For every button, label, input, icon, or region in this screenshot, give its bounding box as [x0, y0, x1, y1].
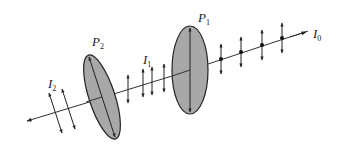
incident-light-markers — [219, 23, 284, 74]
beam-line — [27, 31, 308, 121]
label-i1: I1 — [142, 52, 151, 69]
label-i0: I0 — [312, 26, 321, 43]
label-i2: I2 — [47, 76, 56, 93]
label-p2: P2 — [91, 34, 104, 51]
polarizer-p2 — [76, 51, 128, 143]
polarizer-p1 — [172, 26, 208, 114]
label-p1: P1 — [197, 10, 210, 27]
i1-light-markers — [128, 64, 164, 103]
i2-light-markers — [49, 89, 75, 133]
polarization-diagram: I0 P1 P2 I1 I2 — [0, 0, 342, 149]
